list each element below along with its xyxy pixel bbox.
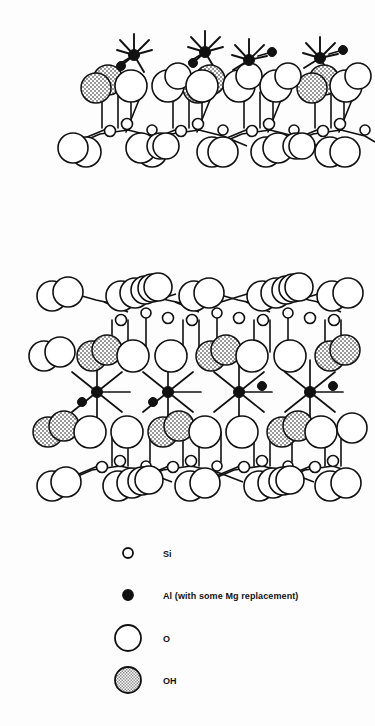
o-atom (226, 416, 258, 448)
si-atom (141, 308, 151, 318)
si-atom (234, 313, 245, 324)
si-marker-icon (123, 548, 133, 558)
al-atom (149, 398, 158, 407)
o-atom (236, 340, 268, 372)
o-atom (135, 466, 163, 494)
si-atom (247, 126, 258, 137)
o-atom (274, 340, 306, 372)
al-atom (163, 387, 174, 398)
si-atom (168, 462, 179, 473)
o-atom (345, 63, 371, 89)
o-atom (186, 70, 218, 102)
o-atom (194, 278, 224, 308)
si-atom (115, 456, 126, 467)
si-atom (318, 126, 329, 137)
al-atom (117, 62, 126, 71)
si-atom (264, 119, 275, 130)
si-atom (328, 456, 339, 467)
o-atom (331, 468, 361, 498)
si-atom (239, 462, 250, 473)
o-atom (144, 273, 172, 301)
al-atom (189, 59, 198, 68)
o-atom (333, 278, 363, 308)
si-atom (305, 313, 316, 324)
si-atom (310, 462, 321, 473)
o-atom (74, 416, 106, 448)
si-atom (193, 119, 204, 130)
o-atom (330, 137, 360, 167)
al-marker-icon (123, 590, 133, 600)
si-atom (105, 126, 116, 137)
al-atom (129, 50, 140, 61)
legend-label-al: Al (with some Mg replacement) (163, 591, 298, 601)
o-atom (305, 416, 337, 448)
oh-atom (81, 73, 111, 103)
si-atom (329, 315, 340, 326)
o-atom (45, 337, 75, 367)
si-atom (283, 308, 293, 318)
al-atom (78, 398, 87, 407)
al-atom (258, 382, 267, 391)
o-atom (58, 133, 88, 163)
o-marker-icon (115, 625, 141, 651)
o-atom (189, 416, 221, 448)
si-atom (122, 119, 133, 130)
al-atom (305, 387, 316, 398)
al-atom (315, 53, 326, 64)
oh-marker-icon (115, 667, 141, 693)
o-atom (53, 277, 83, 307)
o-atom (111, 416, 143, 448)
al-atom (268, 48, 277, 57)
si-atom (212, 461, 222, 471)
o-atom (275, 63, 301, 89)
si-atom (335, 119, 346, 130)
o-atom (115, 70, 147, 102)
al-atom (339, 46, 348, 55)
si-atom (257, 456, 268, 467)
clay-structure-figure: Si Al (with some Mg replacement) O OH (0, 0, 375, 726)
al-atom (92, 387, 103, 398)
legend-label-oh: OH (163, 676, 177, 686)
oh-atom (330, 335, 360, 365)
si-atom (186, 456, 197, 467)
o-atom (51, 467, 81, 497)
si-atom (176, 126, 187, 137)
si-atom (163, 313, 174, 324)
si-atom (212, 308, 222, 318)
si-atom (360, 125, 370, 135)
o-atom (208, 137, 238, 167)
al-atom (234, 387, 245, 398)
al-atom (244, 55, 255, 66)
si-atom (97, 462, 108, 473)
o-atom (285, 273, 313, 301)
legend-label-si: Si (163, 549, 172, 559)
o-atom (155, 340, 187, 372)
o-atom (337, 413, 367, 443)
o-atom (190, 468, 220, 498)
legend-label-o: O (163, 634, 170, 644)
o-atom (117, 340, 149, 372)
si-atom (187, 315, 198, 326)
o-atom (236, 63, 262, 89)
al-atom (200, 47, 211, 58)
si-atom (258, 315, 269, 326)
o-atom (276, 466, 304, 494)
o-atom (289, 133, 315, 159)
si-atom (116, 315, 127, 326)
si-atom (218, 125, 228, 135)
al-atom (329, 382, 338, 391)
o-atom (153, 133, 179, 159)
